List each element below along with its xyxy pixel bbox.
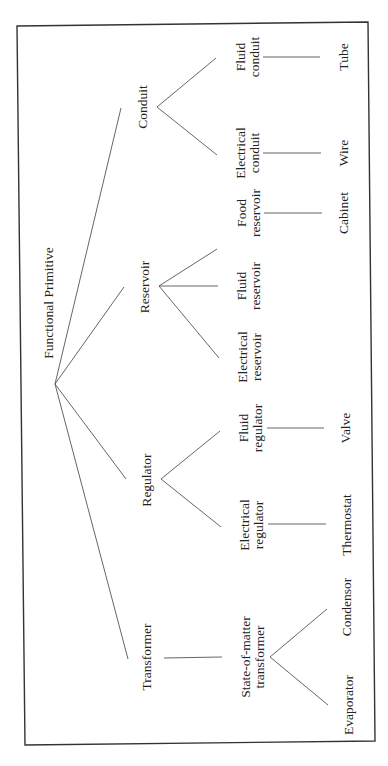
leaf-thermostat: Thermostat [339,494,354,556]
root-label: Functional Primitive [41,247,56,358]
node-electrical-regulator-line2: regulator [251,500,266,549]
edge-root-conduit [55,108,121,384]
node-transformer: Transformer [139,623,154,690]
node-electrical-conduit-line1: Electrical [233,127,248,179]
edge-transformer-state-of-matter [164,657,222,658]
node-electrical-reservoir: Electrical reservoir [235,331,264,383]
leaf-condensor: Condensor [339,577,354,636]
leaf-wire: Wire [336,140,351,166]
node-fluid-reservoir-line1: Fluid [234,271,249,300]
edge-state-of-matter-evaporator [270,657,328,705]
node-state-of-matter-line1: State-of-matter [238,616,253,698]
functional-primitive-tree-diagram: Functional Primitive Conduit Reservoir R… [0,0,388,766]
node-fluid-conduit-line1: Fluid [233,42,248,71]
node-electrical-regulator-line1: Electrical [237,499,252,551]
edge-root-reservoir [55,287,124,384]
node-electrical-reservoir-line1: Electrical [235,331,250,383]
node-conduit: Conduit [135,85,150,129]
node-fluid-regulator: Fluid regulator [236,403,265,452]
node-food-reservoir-line1: Food [234,199,249,227]
node-state-of-matter-transformer: State-of-matter transformer [238,616,267,698]
leaf-valve: Valve [338,413,353,444]
node-reservoir: Reservoir [137,260,152,313]
node-fluid-reservoir-line2: reservoir [248,262,263,310]
node-electrical-regulator: Electrical regulator [237,499,266,551]
node-state-of-matter-line2: transformer [252,625,267,688]
node-fluid-conduit: Fluid conduit [233,37,262,78]
node-regulator: Regulator [139,453,154,507]
edge-conduit-electrical [157,107,217,155]
node-fluid-regulator-line2: regulator [250,403,265,452]
edge-state-of-matter-condensor [270,609,327,657]
diagram-border [17,22,375,745]
edge-regulator-fluid [161,431,220,479]
edge-reservoir-food [159,249,217,286]
node-fluid-regulator-line1: Fluid [236,413,251,442]
edge-root-regulator [55,384,126,479]
edge-reservoir-electrical [159,286,219,358]
node-fluid-reservoir: Fluid reservoir [234,262,263,310]
node-electrical-conduit-line2: conduit [247,133,262,174]
node-food-reservoir-line2: reservoir [248,189,263,237]
node-fluid-conduit-line2: conduit [247,37,262,78]
edge-root-transformer [55,384,128,659]
node-electrical-reservoir-line2: reservoir [249,333,264,381]
edge-regulator-electrical [161,479,221,527]
node-food-reservoir: Food reservoir [234,189,263,237]
leaf-evaporator: Evaporator [341,675,356,735]
node-electrical-conduit: Electrical conduit [233,127,262,179]
root-edges [55,108,128,659]
leaf-tube: Tube [336,43,351,70]
edge-conduit-fluid [157,58,216,107]
leaf-cabinet: Cabinet [336,192,351,234]
